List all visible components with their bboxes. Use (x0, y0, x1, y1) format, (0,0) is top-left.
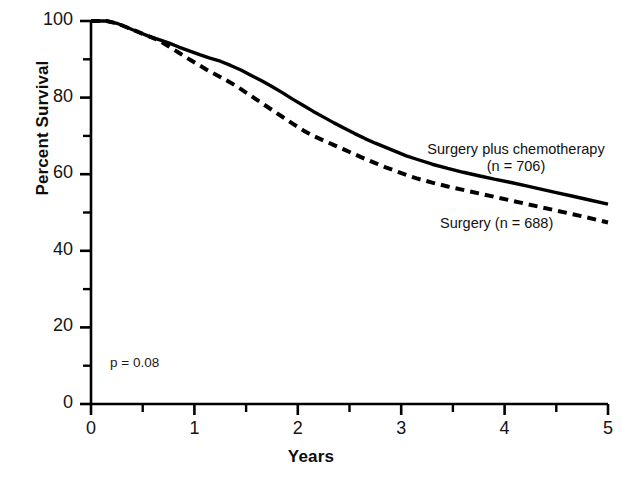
x-axis-title: Years (0, 447, 622, 467)
x-tick-label: 4 (480, 418, 530, 439)
series-line-surgery (91, 21, 608, 222)
y-tick-label: 40 (5, 239, 73, 260)
y-axis-title: Percent Survival (33, 23, 53, 233)
series-label-surgery: Surgery (n = 688) (440, 215, 553, 232)
y-tick-label: 100 (5, 9, 73, 30)
series-label-line-1: Surgery plus chemotherapy (418, 141, 614, 158)
y-tick-label: 60 (5, 162, 73, 183)
x-tick-label: 2 (273, 418, 323, 439)
p-value-annotation: p = 0.08 (110, 355, 159, 370)
x-tick-label: 0 (66, 418, 116, 439)
survival-chart: Percent Survival Years p = 0.08 Surgery … (0, 0, 622, 479)
x-tick-label: 5 (583, 418, 622, 439)
y-tick-label: 0 (5, 392, 73, 413)
series-label-line-2: (n = 706) (418, 158, 614, 175)
chart-canvas (0, 0, 622, 479)
series-group (91, 21, 608, 222)
series-label-surgery-plus-chemotherapy: Surgery plus chemotherapy (n = 706) (418, 141, 614, 175)
x-tick-label: 1 (169, 418, 219, 439)
x-tick-label: 3 (376, 418, 426, 439)
y-tick-label: 20 (5, 315, 73, 336)
y-tick-label: 80 (5, 86, 73, 107)
